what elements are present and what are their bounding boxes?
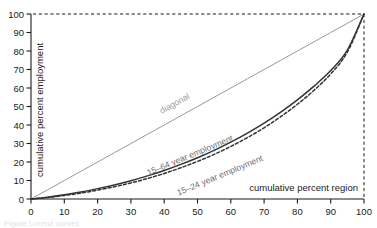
- x-tick-label: 80: [292, 206, 303, 217]
- x-tick-labels: 0 10 20 30 40 50 60 70 80 90 100: [28, 206, 372, 217]
- x-tick-label: 60: [226, 206, 237, 217]
- y-axis-title: cumulative percent employment: [34, 43, 45, 177]
- x-tick-label: 50: [192, 206, 203, 217]
- x-tick-label: 0: [28, 206, 33, 217]
- y-tick-label: 20: [13, 157, 24, 168]
- y-tick-label: 80: [13, 46, 24, 57]
- x-tick-label: 20: [92, 206, 103, 217]
- x-tick-label: 30: [126, 206, 137, 217]
- x-tick-label: 100: [356, 206, 372, 217]
- x-tick-label: 70: [259, 206, 270, 217]
- x-axis-title: cumulative percent region: [249, 182, 358, 193]
- y-tick-label: 10: [13, 175, 24, 186]
- y-tick-label: 0: [19, 194, 24, 205]
- x-tick-label: 90: [325, 206, 336, 217]
- y-tick-label: 100: [8, 9, 24, 20]
- y-tick-label: 30: [13, 138, 24, 149]
- x-axis-ticks: [31, 199, 364, 204]
- y-tick-label: 40: [13, 120, 24, 131]
- lorenz-curve-chart: 100 90 80 70 60 50 40 30 20 10 0 0 10 20…: [0, 0, 377, 228]
- y-tick-label: 60: [13, 83, 24, 94]
- y-tick-label: 70: [13, 64, 24, 75]
- y-tick-label: 50: [13, 101, 24, 112]
- x-tick-label: 10: [59, 206, 70, 217]
- figure-caption: Figure Lorenz curves: [0, 219, 377, 228]
- y-axis-ticks: [27, 14, 32, 199]
- y-tick-label: 90: [13, 27, 24, 38]
- figure-container: 100 90 80 70 60 50 40 30 20 10 0 0 10 20…: [0, 0, 377, 228]
- y-tick-labels: 100 90 80 70 60 50 40 30 20 10 0: [8, 9, 24, 205]
- x-tick-label: 40: [159, 206, 170, 217]
